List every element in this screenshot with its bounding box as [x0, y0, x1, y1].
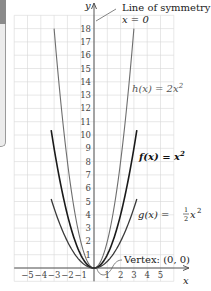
f-function-label: f(x) = x2	[138, 149, 185, 162]
y-tick-label: 18	[80, 24, 91, 34]
svg-text:2: 2	[184, 215, 188, 223]
vertex-label: Vertex: (0, 0)	[123, 254, 190, 265]
y-tick-label: 7	[86, 170, 91, 180]
x-tick-label: 4	[144, 270, 149, 280]
y-tick-label: 16	[80, 50, 91, 60]
y-tick-label: 8	[86, 157, 91, 167]
y-tick-label: 5	[86, 197, 91, 207]
y-axis-label: y	[84, 0, 91, 11]
y-tick-label: 9	[86, 143, 91, 153]
y-tick-label: 2	[86, 236, 91, 246]
y-tick-label: 17	[80, 37, 91, 47]
y-tick-label: 3	[86, 223, 91, 233]
y-tick-label: 14	[80, 77, 91, 87]
h-function-label: h(x) = 2x2	[132, 82, 184, 94]
svg-text:2: 2	[197, 207, 201, 215]
x-axis-label: x	[183, 275, 189, 286]
y-tick-label: 10	[80, 130, 91, 140]
parabola-graph: −5−4−3−2−1123451234567891011121314151617…	[0, 0, 211, 291]
svg-text:g(x) =: g(x) =	[138, 209, 169, 220]
svg-text:x: x	[190, 209, 196, 220]
x-tick-label: −4	[35, 270, 48, 280]
y-tick-label: 13	[80, 90, 91, 100]
axes	[14, 3, 189, 281]
x-tick-label: −3	[48, 270, 61, 280]
svg-text:1: 1	[184, 206, 188, 214]
x-tick-label: −5	[21, 270, 34, 280]
x-tick-label: 2	[118, 270, 123, 280]
symmetry-equation: x = 0	[122, 14, 149, 25]
x-tick-label: −2	[61, 270, 74, 280]
y-tick-label: 4	[86, 210, 91, 220]
x-tick-label: −1	[74, 270, 87, 280]
x-tick-label: 3	[131, 270, 136, 280]
y-tick-label: 12	[80, 103, 91, 113]
symmetry-label: Line of symmetry:	[122, 2, 211, 13]
y-tick-label: 6	[86, 183, 91, 193]
y-tick-label: 15	[80, 64, 91, 74]
x-tick-label: 5	[158, 270, 163, 280]
y-tick-label: 11	[80, 117, 91, 127]
